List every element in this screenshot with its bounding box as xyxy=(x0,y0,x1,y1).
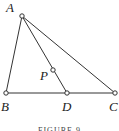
point-d-marker xyxy=(65,91,69,95)
point-a-marker xyxy=(20,14,24,18)
label-b: B xyxy=(1,99,9,114)
label-d: D xyxy=(61,99,72,114)
point-b-marker xyxy=(4,91,8,95)
segment-ac xyxy=(22,16,115,93)
triangle-figure: A B D C P FIGURE 9 xyxy=(0,0,119,131)
point-p-marker xyxy=(51,68,55,72)
label-p: P xyxy=(39,68,48,83)
segment-ab xyxy=(6,16,22,93)
label-c: C xyxy=(109,99,118,114)
point-c-marker xyxy=(113,91,117,95)
label-a: A xyxy=(5,0,14,15)
figure-caption: FIGURE 9 xyxy=(38,126,81,131)
